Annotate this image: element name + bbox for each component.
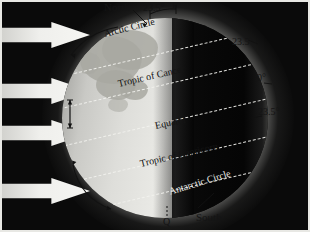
label-south: South	[196, 211, 222, 223]
label-north: North	[104, 1, 130, 13]
label-tilt-angle: 23.5°	[143, 2, 165, 13]
label-angle-lower-right: 23.5°	[258, 106, 280, 117]
figure-canvas: North 23.5° P Arctic Circle Tropic of Ca…	[0, 0, 310, 232]
label-angle-upper-right: 23.5°	[232, 36, 254, 47]
label-angle-equator-right: 0°	[257, 72, 266, 83]
label-pole-p: P	[172, 0, 178, 10]
label-pole-q: Q	[163, 216, 170, 227]
